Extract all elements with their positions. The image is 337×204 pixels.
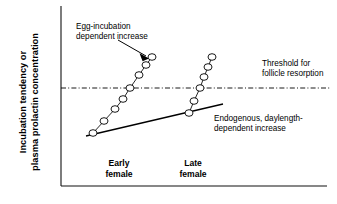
- egg-incubation-annotation-label: Egg-incubation dependent increase: [76, 22, 148, 43]
- egg-incubation-annotation-line-1: Egg-incubation: [76, 22, 148, 32]
- endogenous-annotation-line-2: dependent increase: [214, 124, 303, 134]
- x-axis-category-late-female: Late female: [170, 158, 216, 179]
- data-point: [148, 54, 156, 61]
- x-axis-category-early-female: Early female: [96, 158, 142, 179]
- threshold-annotation-label: Threshold for follicle resorption: [262, 59, 323, 80]
- chart-figure: Incubation tendency or plasma prolactin …: [0, 0, 337, 204]
- endogenous-annotation-line-1: Endogenous, daylength-: [214, 114, 303, 124]
- x-axis-category-early-female-line-2: female: [96, 169, 142, 180]
- series-early-female: [89, 54, 156, 137]
- plot-area: [0, 0, 337, 204]
- data-point: [200, 74, 208, 81]
- data-point: [126, 85, 134, 92]
- data-point: [196, 85, 204, 92]
- data-point: [135, 72, 143, 79]
- data-point: [190, 98, 198, 105]
- data-point: [185, 110, 193, 117]
- data-point: [100, 118, 108, 125]
- data-point: [119, 96, 127, 103]
- threshold-annotation-line-1: Threshold for: [262, 59, 323, 69]
- data-point: [208, 54, 216, 61]
- data-point: [111, 106, 119, 113]
- data-point: [204, 64, 212, 71]
- x-axis-category-early-female-line-1: Early: [96, 158, 142, 169]
- egg-incubation-arrow: [118, 40, 149, 61]
- x-axis-category-late-female-line-1: Late: [170, 158, 216, 169]
- endogenous-annotation-label: Endogenous, daylength- dependent increas…: [214, 114, 303, 135]
- x-axis-category-late-female-line-2: female: [170, 169, 216, 180]
- data-point: [89, 130, 97, 137]
- data-point: [142, 62, 150, 69]
- threshold-annotation-line-2: follicle resorption: [262, 69, 323, 79]
- egg-incubation-annotation-line-2: dependent increase: [76, 32, 148, 42]
